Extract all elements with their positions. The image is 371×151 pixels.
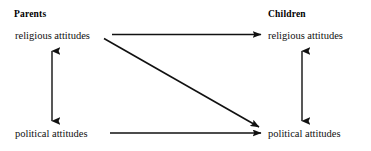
- node-label-parents-political-attitudes: political attitudes: [15, 129, 88, 140]
- path-diagram-figure: Parents Children religious attitudes pol…: [0, 0, 371, 151]
- arrow-parents-religious-to-children-political: [104, 39, 259, 128]
- column-header-parents: Parents: [14, 10, 46, 20]
- node-label-children-political-attitudes: political attitudes: [268, 129, 341, 140]
- column-header-children: Children: [268, 10, 306, 20]
- node-label-parents-religious-attitudes: religious attitudes: [15, 31, 90, 42]
- node-label-children-religious-attitudes: religious attitudes: [268, 31, 343, 42]
